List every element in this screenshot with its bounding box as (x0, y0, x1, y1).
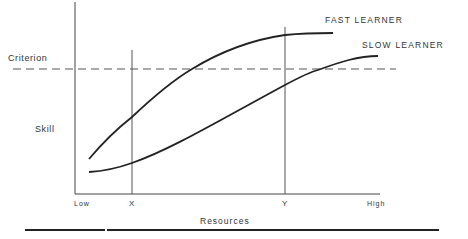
fast-learner-label: FAST LEARNER (325, 15, 403, 25)
slow-learner-label: SLOW LEARNER (362, 40, 444, 50)
tick-y: Y (282, 199, 288, 208)
tick-low: Low (74, 200, 90, 207)
tick-high: High (367, 200, 385, 208)
x-axis-label: Resources (200, 216, 250, 226)
criterion-label: Criterion (8, 53, 47, 63)
y-axis-label: Skill (35, 124, 55, 134)
learning-curve-chart: Criterion Skill Low X Y High Resources F… (0, 0, 468, 239)
tick-x: X (129, 199, 135, 208)
fast-learner-curve (89, 33, 333, 159)
